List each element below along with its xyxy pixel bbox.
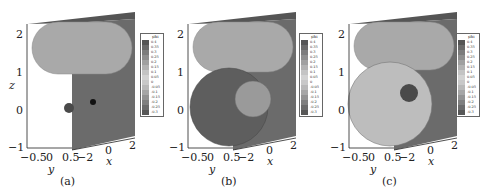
caption-b: (b) bbox=[221, 176, 237, 187]
x-tick: 2 bbox=[290, 140, 297, 151]
z-tick: 0 bbox=[338, 105, 345, 116]
z-tick: 1 bbox=[338, 67, 345, 78]
x-tick: −2 bbox=[399, 152, 415, 163]
colorbar-label: -0.3 bbox=[310, 110, 317, 115]
y-tick: −0.5 bbox=[181, 152, 208, 163]
z-tick: 2 bbox=[16, 29, 23, 40]
caption-a: (a) bbox=[60, 176, 75, 187]
panel-b: 2 1 0 −1 −0.5 0 0.5 −2 0 2 y x (b) phi 0… bbox=[161, 0, 323, 196]
plot-3d-a bbox=[0, 0, 162, 196]
y-tick: −0.5 bbox=[342, 152, 369, 163]
z-tick: 0 bbox=[177, 105, 184, 116]
y-tick: −0.5 bbox=[20, 152, 47, 163]
colorbar-row: -0.3 bbox=[142, 110, 162, 115]
y-tick: 0 bbox=[207, 152, 214, 163]
colorbar-swatch bbox=[458, 110, 465, 115]
x-tick: 2 bbox=[451, 140, 458, 151]
z-tick: 1 bbox=[16, 67, 23, 78]
y-tick: 0 bbox=[46, 152, 53, 163]
z-tick: 2 bbox=[338, 29, 345, 40]
z-tick: 1 bbox=[177, 67, 184, 78]
z-label: z bbox=[9, 80, 15, 91]
colorbar-label: -0.3 bbox=[467, 110, 474, 115]
panel-a: 2 1 0 −1 z −0.5 0 0.5 −2 0 2 y x (a) phi… bbox=[0, 0, 162, 196]
colorbar-swatch bbox=[142, 110, 149, 115]
colorbar-row: -0.3 bbox=[301, 110, 321, 115]
panel-c: 2 1 0 −1 −0.5 0 0.5 −2 0 2 y x (c) phi 0… bbox=[322, 0, 484, 196]
colorbar-b: phi 0.40.350.30.250.20.150.10.050-0.05-0… bbox=[299, 33, 323, 117]
z-tick: 2 bbox=[177, 29, 184, 40]
z-tick: 0 bbox=[16, 105, 23, 116]
caption-c: (c) bbox=[382, 176, 397, 187]
colorbar-label: -0.3 bbox=[151, 110, 158, 115]
y-label: y bbox=[209, 164, 215, 175]
colorbar-row: -0.3 bbox=[458, 110, 478, 115]
x-label: x bbox=[428, 156, 434, 167]
x-tick: 2 bbox=[129, 140, 136, 151]
x-label: x bbox=[267, 156, 273, 167]
x-label: x bbox=[106, 156, 112, 167]
colorbar-c: phi 0.40.350.30.250.20.150.10.050-0.05-0… bbox=[456, 33, 480, 117]
y-label: y bbox=[370, 164, 376, 175]
y-label: y bbox=[48, 164, 54, 175]
x-tick: −2 bbox=[238, 152, 254, 163]
colorbar-swatch bbox=[301, 110, 308, 115]
x-tick: −2 bbox=[77, 152, 93, 163]
y-tick: 0 bbox=[368, 152, 375, 163]
